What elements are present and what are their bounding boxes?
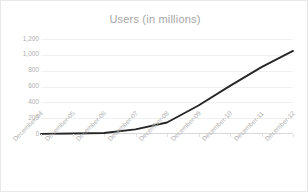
x-tick-2 [104,134,105,137]
y-tick-label-800: 800 [5,67,39,74]
x-tick-4 [167,134,168,137]
x-axis-labels: December-04December-05December-06Decembe… [41,138,293,192]
y-tick-label-400: 400 [5,99,39,106]
y-tick-label-1200: 1,200 [5,36,39,43]
x-tick-0 [41,134,42,137]
x-tick-8 [293,134,294,137]
chart-card: Users (in millions) 02004006008001,0001,… [0,0,308,192]
y-tick-label-1000: 1,000 [5,51,39,58]
x-tick-6 [230,134,231,137]
chart-title: Users (in millions) [1,13,308,25]
y-tick-label-600: 600 [5,83,39,90]
